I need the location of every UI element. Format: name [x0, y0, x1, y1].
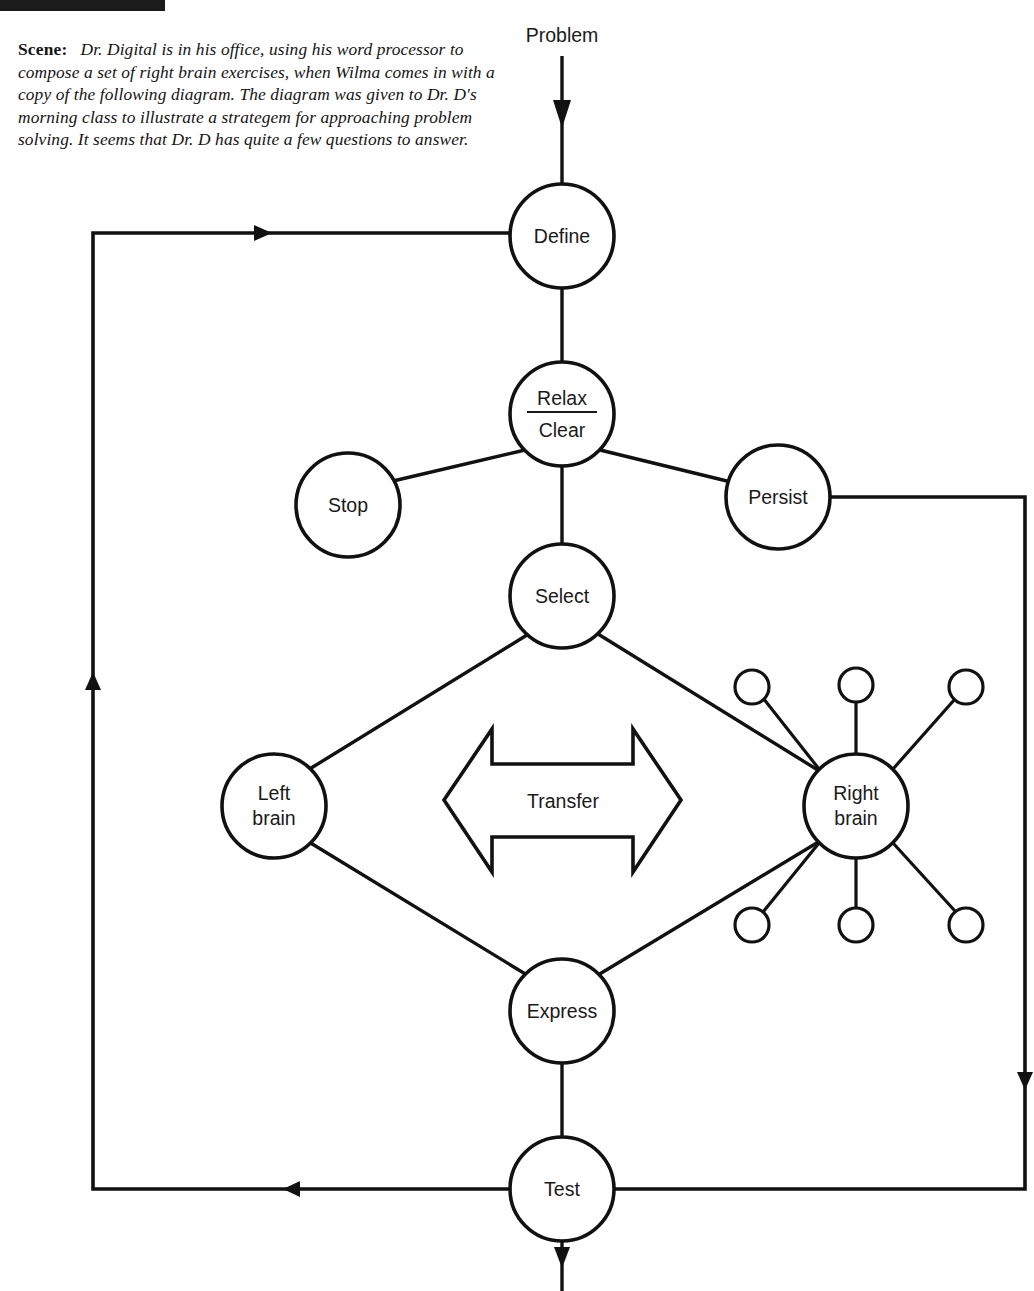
satellite-circle	[839, 908, 873, 942]
satellite-circle	[839, 668, 873, 702]
problem-solving-flowchart: Problem	[0, 0, 1034, 1291]
node-select-label: Select	[535, 585, 590, 607]
edge-leftbrain-express	[309, 842, 527, 975]
node-relax-clear[interactable]: Relax Clear	[510, 362, 614, 466]
node-stop[interactable]: Stop	[296, 453, 400, 557]
edge-test-to-define-loop	[85, 225, 510, 1197]
arrowhead-problem	[553, 100, 571, 128]
node-persist-label: Persist	[748, 486, 808, 508]
node-define[interactable]: Define	[510, 184, 614, 288]
node-right-brain-label-line2: brain	[834, 807, 877, 829]
arrowhead-down-right-loop	[1017, 1072, 1033, 1090]
node-stop-label: Stop	[328, 494, 368, 516]
transfer-bidirectional-arrow: Transfer	[444, 729, 681, 872]
diagram-page: Scene:Dr. Digital is in his office, usin…	[0, 0, 1034, 1291]
node-test-label: Test	[544, 1178, 580, 1200]
edge-relax-persist	[600, 450, 731, 482]
node-right-brain-circle[interactable]	[804, 754, 908, 858]
arrowhead-up	[85, 672, 101, 690]
node-persist[interactable]: Persist	[726, 445, 830, 549]
satellite-circle	[949, 670, 983, 704]
node-define-label: Define	[534, 225, 590, 247]
entry-label-problem: Problem	[526, 24, 599, 46]
node-test[interactable]: Test	[510, 1137, 614, 1241]
node-express[interactable]: Express	[510, 959, 614, 1063]
node-left-brain[interactable]: Left brain	[222, 754, 326, 858]
node-relax-clear-circle[interactable]	[510, 362, 614, 466]
node-right-brain-label-line1: Right	[833, 782, 879, 804]
edge-problem-to-define	[553, 56, 571, 184]
node-select[interactable]: Select	[510, 544, 614, 648]
node-clear-label: Clear	[539, 419, 586, 441]
transfer-label: Transfer	[527, 790, 599, 812]
node-right-brain[interactable]: Right brain	[804, 754, 908, 858]
node-left-brain-label-line1: Left	[258, 782, 291, 804]
edge-select-leftbrain	[308, 635, 527, 770]
arrowhead-right	[254, 225, 272, 241]
satellite-circle	[735, 908, 769, 942]
satellite-circle	[949, 908, 983, 942]
node-left-brain-circle[interactable]	[222, 754, 326, 858]
satellite-circle	[735, 670, 769, 704]
edge-test-output	[554, 1241, 570, 1291]
edge-relax-stop	[393, 450, 525, 481]
node-left-brain-label-line2: brain	[252, 807, 295, 829]
arrowhead-output	[554, 1247, 570, 1268]
node-relax-label: Relax	[537, 387, 587, 409]
node-express-label: Express	[527, 1000, 598, 1022]
arrowhead-left	[283, 1181, 300, 1197]
